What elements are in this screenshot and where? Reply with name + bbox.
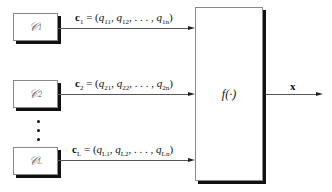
source-label: 𝒞 (29, 20, 38, 35)
output-label: x (290, 80, 296, 92)
ellipsis-dot (37, 138, 40, 141)
connector-line-1 (58, 28, 188, 29)
function-box: f(·) (195, 7, 263, 181)
source-label: 𝒞 (29, 87, 38, 102)
source-label: 𝒞 (29, 154, 38, 169)
output-line (266, 94, 316, 95)
connector-line-L (58, 160, 188, 161)
connector-line-2 (58, 94, 188, 95)
arrow-head-1 (188, 26, 195, 30)
vector-label-L: cL = (qL1, qL2, . . . , qLn) (72, 143, 173, 158)
output-arrow-head (316, 92, 323, 96)
source-box-2: 𝒞2 (13, 80, 58, 108)
source-box-L: 𝒞L (13, 147, 58, 175)
arrow-head-L (188, 158, 195, 162)
arrow-head-2 (188, 92, 195, 96)
ellipsis-dot (37, 120, 40, 123)
vector-label-1: c1 = (q11, q12, . . . , q1n) (75, 11, 173, 26)
function-label: f(·) (222, 87, 236, 102)
ellipsis-dot (37, 129, 40, 132)
source-box-1: 𝒞1 (13, 13, 58, 41)
vector-label-2: c2 = (q21, q22, . . . , q2n) (75, 77, 173, 92)
